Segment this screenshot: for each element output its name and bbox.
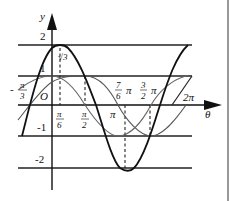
x-tick-pi-2: π 2	[81, 109, 89, 130]
svg-text:3: 3	[140, 80, 146, 90]
x-tick-7pi-6: 7 6 π	[115, 80, 132, 101]
x-tick-3pi-2: 3 2 π	[140, 80, 157, 101]
dashed-guides	[60, 48, 150, 168]
y-tick-1: 1	[40, 62, 46, 74]
svg-text:6: 6	[57, 120, 62, 130]
svg-text:π: π	[82, 109, 87, 119]
svg-text:π: π	[57, 109, 62, 119]
svg-text:6: 6	[116, 91, 121, 101]
x-axis-label: θ	[205, 108, 211, 120]
y-axis-label: y	[39, 10, 45, 22]
svg-text:-: -	[10, 83, 14, 95]
sqrt3-annotation: √3	[58, 52, 68, 62]
curve-2cos	[22, 45, 188, 171]
origin-label: O	[40, 90, 48, 102]
y-axis-arrow-icon	[47, 13, 57, 30]
svg-text:π: π	[20, 80, 25, 90]
trig-graph: y θ 2 1 -1 -2 O √3 - π 3 π 6 π 2 π 7 6 π…	[0, 0, 234, 201]
x-tick-neg-pi-3: - π 3	[10, 80, 27, 101]
x-tick-pi: π	[110, 108, 116, 120]
y-tick-2: 2	[40, 30, 46, 42]
y-tick-neg2: -2	[35, 153, 44, 165]
svg-text:2: 2	[141, 91, 146, 101]
y-axis	[47, 13, 57, 190]
svg-text:2: 2	[82, 120, 87, 130]
svg-text:3: 3	[19, 91, 25, 101]
svg-text:7: 7	[116, 80, 121, 90]
y-tick-neg1: -1	[37, 121, 46, 133]
svg-text:π: π	[126, 84, 132, 96]
svg-text:π: π	[151, 84, 157, 96]
x-tick-2pi: 2π	[183, 91, 195, 103]
x-tick-pi-6: π 6	[56, 109, 64, 130]
